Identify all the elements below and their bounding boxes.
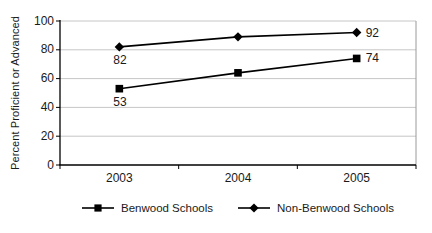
y-tick-label-80: 80 (14, 43, 54, 56)
data-label-benwood-schools-53: 53 (113, 96, 126, 109)
marker-diamond-non-benwood-schools-2004 (233, 32, 242, 41)
legend-label-benwood-schools: Benwood Schools (121, 202, 213, 214)
y-tick-label-20: 20 (14, 130, 54, 143)
square-marker-icon (82, 202, 114, 214)
legend-item-non-benwood-schools: Non-Benwood Schools (238, 202, 394, 214)
x-tick-label-2004: 2004 (203, 172, 273, 185)
y-tick-label-40: 40 (14, 101, 54, 114)
data-label-non-benwood-schools-82: 82 (113, 54, 126, 67)
marker-square-benwood-schools-2005 (353, 55, 361, 63)
line-chart-figure: Percent Proficient or Advanced 020406080… (0, 0, 432, 233)
x-tick-label-2003: 2003 (84, 172, 154, 185)
data-label-non-benwood-schools-92: 92 (366, 27, 379, 40)
y-tick-label-0: 0 (14, 159, 54, 172)
marker-square-benwood-schools-2004 (234, 69, 242, 77)
y-tick-label-100: 100 (14, 15, 54, 28)
y-tick-label-60: 60 (14, 72, 54, 85)
legend-label-non-benwood-schools: Non-Benwood Schools (277, 202, 394, 214)
chart-legend: Benwood Schools Non-Benwood Schools (60, 199, 416, 217)
data-label-benwood-schools-74: 74 (366, 52, 379, 65)
legend-item-benwood-schools: Benwood Schools (82, 202, 213, 214)
marker-diamond-non-benwood-schools-2005 (352, 28, 361, 37)
marker-square-benwood-schools-2003 (116, 85, 124, 93)
diamond-marker-icon (238, 202, 270, 214)
x-tick-label-2005: 2005 (322, 172, 392, 185)
